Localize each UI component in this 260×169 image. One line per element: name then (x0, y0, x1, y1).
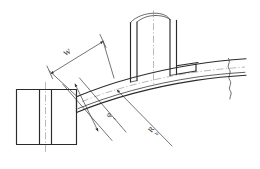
flange-top-break (131, 13, 171, 22)
thickness-dimension-subscript: t (111, 116, 117, 121)
width-extension-left (47, 66, 53, 79)
radius-leader-line (117, 90, 172, 146)
strip-bottom-edge (77, 75, 247, 112)
technical-drawing-figure: W φ t R b (0, 0, 260, 169)
strip-centerline (82, 67, 245, 101)
left-end-block (17, 82, 77, 152)
right-break (228, 58, 231, 99)
vertical-flange (131, 11, 199, 85)
width-dimension-arrow (51, 42, 103, 74)
width-dimension-label: W (62, 47, 73, 58)
thickness-dimension-arrow (75, 84, 98, 131)
flange-base-left (131, 81, 138, 82)
right-break-wave (228, 58, 231, 99)
radius-dimension: R b (117, 90, 172, 146)
drawing-canvas: W φ t R b (0, 0, 260, 169)
left-block-outline (17, 90, 77, 145)
width-leader-right (103, 41, 114, 78)
